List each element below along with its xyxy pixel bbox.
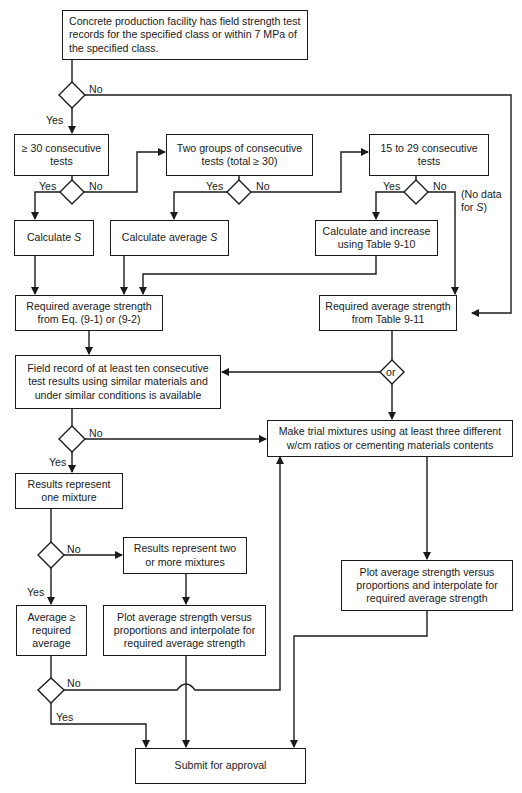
two-groups-text: Two groups of consecutive tests (total ≥…	[171, 142, 308, 168]
d6-no-label: No	[67, 543, 81, 555]
plot-left-text: Plot average strength versus proportions…	[108, 611, 261, 651]
trial-mixtures-box: Make trial mixtures using at least three…	[267, 420, 513, 457]
or-label: or	[386, 366, 395, 378]
d6-yes-label: Yes	[27, 586, 44, 598]
calc-avg-s-box: Calculate average S	[110, 220, 229, 256]
avg-ge-req-text: Average ≥ required average	[21, 611, 82, 651]
one-mixture-box: Results represent one mixture	[15, 473, 123, 509]
two-or-more-text: Results represent two or more mixtures	[128, 542, 242, 568]
submit-box: Submit for approval	[135, 748, 306, 784]
trial-mixtures-text: Make trial mixtures using at least three…	[272, 425, 508, 451]
d5-yes-label: Yes	[49, 456, 66, 468]
calc-avg-s-text: Calculate average S	[122, 231, 217, 244]
no-data-label: (No data for S)	[461, 188, 502, 214]
d4-no-label: No	[433, 180, 447, 192]
d5-no-label: No	[89, 427, 103, 439]
d2-yes-label: Yes	[39, 180, 56, 192]
field-record-text: Field record of at least ten consecutive…	[20, 362, 216, 402]
start-text: Concrete production facility has field s…	[69, 15, 303, 55]
d7-no-label: No	[67, 677, 81, 689]
n15-29-text: 15 to 29 consecutive tests	[374, 142, 484, 168]
d1-yes-label: Yes	[46, 114, 63, 126]
d2-no-label: No	[89, 180, 103, 192]
calc-s-box: Calculate S	[14, 220, 94, 256]
d7-yes-label: Yes	[56, 711, 73, 723]
submit-text: Submit for approval	[175, 759, 267, 772]
avg-ge-req-box: Average ≥ required average	[16, 605, 87, 656]
start-box: Concrete production facility has field s…	[62, 10, 308, 60]
plot-right-box: Plot average strength versus proportions…	[341, 560, 513, 611]
calc-increase-box: Calculate and increase using Table 9-10	[315, 220, 438, 256]
one-mixture-text: Results represent one mixture	[20, 478, 118, 504]
two-groups-box: Two groups of consecutive tests (total ≥…	[166, 134, 313, 176]
d4-yes-label: Yes	[383, 180, 400, 192]
req-avg-eq-text: Required average strength from Eq. (9-1)…	[20, 300, 158, 326]
ge30-box: ≥ 30 consecutive tests	[14, 134, 109, 176]
two-or-more-box: Results represent two or more mixtures	[123, 537, 247, 574]
req-avg-eq-box: Required average strength from Eq. (9-1)…	[15, 295, 163, 331]
field-record-box: Field record of at least ten consecutive…	[15, 355, 221, 409]
calc-s-text: Calculate S	[27, 231, 81, 244]
calc-increase-text: Calculate and increase using Table 9-10	[320, 225, 433, 251]
plot-left-box: Plot average strength versus proportions…	[103, 605, 266, 656]
req-avg-table-text: Required average strength from Table 9-1…	[324, 300, 452, 326]
d1-no-label: No	[89, 83, 103, 95]
d3-no-label: No	[256, 180, 270, 192]
ge30-text: ≥ 30 consecutive tests	[19, 142, 104, 168]
plot-right-text: Plot average strength versus proportions…	[346, 566, 508, 606]
d3-yes-label: Yes	[206, 180, 223, 192]
req-avg-table-box: Required average strength from Table 9-1…	[319, 295, 457, 331]
n15-29-box: 15 to 29 consecutive tests	[369, 134, 489, 176]
